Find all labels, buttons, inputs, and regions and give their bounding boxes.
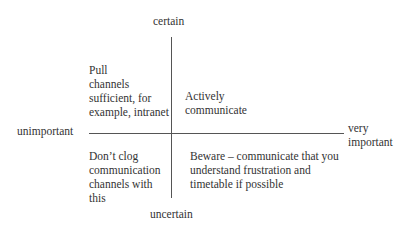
axis-label-bottom: uncertain — [150, 207, 193, 221]
horizontal-axis-line — [89, 133, 344, 134]
quadrant-bottom-right: Beware – communicate that you understand… — [190, 149, 339, 191]
vertical-axis-line — [171, 37, 172, 198]
quadrant-top-right: Actively communicate — [185, 89, 247, 117]
quadrant-bottom-left: Don’t clog communication channels with t… — [89, 149, 161, 205]
axis-label-right: very important — [348, 121, 393, 149]
quadrant-top-left: Pull channels sufficient, for example, i… — [89, 63, 169, 119]
axis-label-top: certain — [153, 14, 184, 28]
axis-label-left: unimportant — [17, 124, 73, 138]
